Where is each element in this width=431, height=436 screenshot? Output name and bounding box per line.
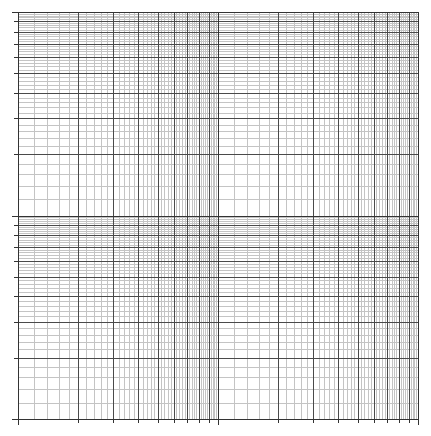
- log-log-graph-paper: [0, 0, 431, 436]
- grid-canvas: [0, 0, 431, 436]
- axis-ticks: [12, 13, 419, 426]
